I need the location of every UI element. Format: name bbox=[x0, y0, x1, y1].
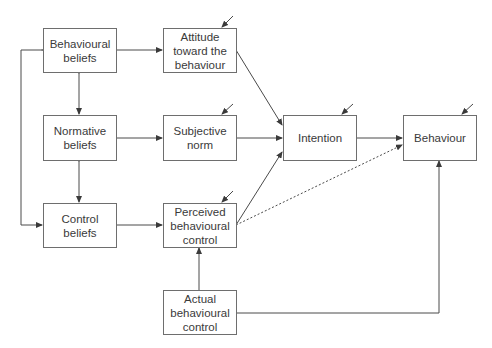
node-label: Subjective norm bbox=[173, 124, 226, 152]
edge-attitude-to-intention bbox=[236, 50, 282, 125]
node-label: Behavioural beliefs bbox=[50, 37, 111, 65]
node-label: Control beliefs bbox=[61, 212, 98, 240]
error-arrow-behaviour bbox=[462, 104, 473, 114]
node-perceived-behavioural-control: Perceived behavioural control bbox=[163, 203, 237, 248]
node-normative-beliefs: Normative beliefs bbox=[43, 115, 117, 161]
edge-behavioural-control-bracket bbox=[21, 50, 42, 225]
node-label: Actual behavioural control bbox=[170, 292, 229, 334]
error-arrow-subjective-norm bbox=[222, 104, 233, 114]
node-intention: Intention bbox=[283, 115, 357, 161]
node-label: Attitude toward the behaviour bbox=[173, 30, 227, 72]
node-control-beliefs: Control beliefs bbox=[43, 203, 117, 248]
error-arrow-attitude bbox=[222, 16, 233, 27]
node-attitude: Attitude toward the behaviour bbox=[163, 28, 237, 73]
error-arrow-perceived-control bbox=[222, 191, 233, 202]
node-label: Perceived behavioural control bbox=[170, 205, 229, 247]
node-behavioural-beliefs: Behavioural beliefs bbox=[43, 28, 117, 73]
edge-actual-control-to-behaviour bbox=[236, 161, 439, 313]
node-label: Normative beliefs bbox=[54, 124, 106, 152]
node-label: Behaviour bbox=[414, 131, 466, 145]
node-actual-behavioural-control: Actual behavioural control bbox=[163, 290, 237, 335]
node-behaviour: Behaviour bbox=[403, 115, 477, 161]
node-label: Intention bbox=[298, 131, 342, 145]
error-arrow-intention bbox=[342, 104, 353, 114]
node-subjective-norm: Subjective norm bbox=[163, 115, 237, 161]
